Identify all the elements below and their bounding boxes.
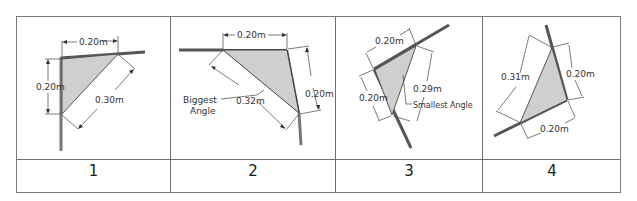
panel-number-3: 3 — [336, 160, 482, 193]
biggest-angle-label-line1: Biggest — [183, 95, 217, 105]
dimension-label-bottom: 0.20m — [540, 124, 569, 134]
diagram-panel-4: 0.20m 0.20m 0.31m — [483, 17, 621, 159]
panel-number-1: 1 — [17, 160, 170, 193]
dimension-label-right: 0.20m — [305, 89, 334, 99]
triangle-diagram-3: 0.20m 0.20m 0.29m Smallest Angle — [336, 17, 482, 159]
dimension-label-diagonal: 0.31m — [501, 72, 530, 82]
diagram-panel-2: 0.20m 0.20m 0.32m Biggest Angle — [171, 17, 335, 159]
panel-number-2: 2 — [171, 160, 335, 193]
dimension-label-diagonal: 0.30m — [95, 95, 124, 105]
triangle-diagram-1: 0.20m 0.20m 0.30m — [17, 17, 170, 159]
diagram-panel-3: 0.20m 0.20m 0.29m Smallest Angle — [336, 17, 482, 159]
panel-number-4: 4 — [483, 160, 621, 193]
dimension-label-top: 0.20m — [375, 36, 404, 46]
triangle-diagram-2: 0.20m 0.20m 0.32m Biggest Angle — [171, 17, 335, 159]
diagram-panel-1: 0.20m 0.20m 0.30m — [17, 17, 170, 159]
triangle-diagram-4: 0.20m 0.20m 0.31m — [483, 17, 621, 159]
dimension-label-right: 0.20m — [566, 69, 595, 79]
biggest-angle-label-line2: Angle — [190, 106, 216, 116]
dimension-label-top: 0.20m — [79, 37, 108, 47]
dimension-label-top: 0.20m — [237, 30, 266, 40]
dimension-label-left: 0.20m — [359, 93, 388, 103]
dimension-label-left: 0.20m — [36, 82, 65, 92]
dimension-label-diagonal: 0.29m — [413, 84, 442, 94]
dimension-label-diagonal: 0.32m — [236, 96, 265, 106]
smallest-angle-label: Smallest Angle — [413, 101, 473, 110]
bracket-options-table: 0.20m 0.20m 0.30m — [16, 16, 621, 193]
